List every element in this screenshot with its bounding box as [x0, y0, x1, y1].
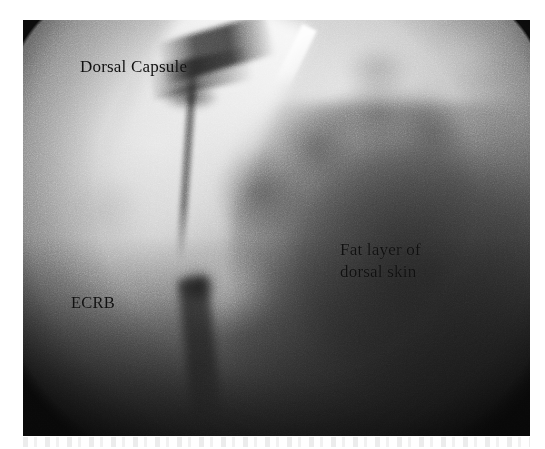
- film-grain-texture: [23, 20, 530, 436]
- annotation-fat-layer-of-dorsal-skin: Fat layer of dorsal skin: [340, 239, 421, 283]
- figure-page: Dorsal Capsule ECRB Fat layer of dorsal …: [0, 0, 545, 449]
- arthroscopic-photograph: Dorsal Capsule ECRB Fat layer of dorsal …: [23, 20, 530, 436]
- scan-artifact-ghost-text: [23, 437, 530, 447]
- annotation-ecrb: ECRB: [71, 292, 115, 314]
- annotation-dorsal-capsule: Dorsal Capsule: [80, 56, 187, 78]
